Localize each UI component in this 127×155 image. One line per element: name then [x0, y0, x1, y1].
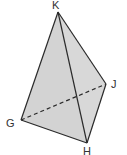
vertex-label-j: J	[111, 78, 117, 90]
vertex-label-h: H	[83, 145, 91, 155]
vertex-label-k: K	[52, 0, 60, 11]
vertex-label-g: G	[6, 117, 15, 129]
tetrahedron-diagram: K J G H	[0, 0, 127, 155]
